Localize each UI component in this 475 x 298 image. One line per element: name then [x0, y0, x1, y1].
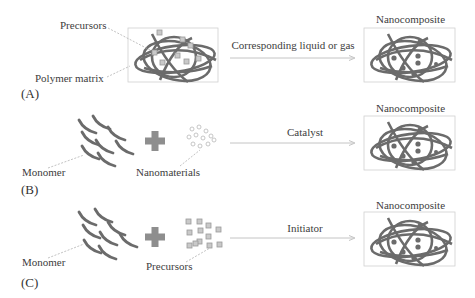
nanocomposite-label-a: Nanocomposite	[376, 14, 445, 25]
panel-a-input-box	[128, 28, 218, 87]
precursors-leader-line	[108, 28, 150, 50]
matrix-leader-line	[107, 66, 130, 77]
panel-b-output-box	[364, 116, 455, 175]
precursors-label-c: Precursors	[146, 261, 192, 272]
nanomaterial-circles	[187, 125, 216, 148]
panel-c-monomers	[79, 209, 137, 259]
panel-c-tag: (C)	[21, 276, 38, 289]
precursor-squares	[186, 219, 222, 248]
polymer-matrix-label: Polymer matrix	[35, 73, 104, 84]
nanomaterials-label: Nanomaterials	[136, 167, 200, 178]
panel-c-output-box	[364, 212, 455, 271]
monomer-label-b: Monomer	[22, 167, 65, 178]
nanocomposite-label-c: Nanocomposite	[376, 200, 445, 211]
panel-a-tag: (A)	[21, 87, 39, 100]
panel-b-tag: (B)	[21, 183, 38, 196]
panel-a-arrow	[230, 56, 355, 61]
plus-icon	[145, 131, 165, 151]
step-label-c: Initiator	[287, 223, 322, 234]
panel-b-monomers	[79, 116, 133, 166]
plus-icon	[145, 227, 165, 247]
step-label-a: Corresponding liquid or gas	[231, 40, 354, 51]
panel-b-arrow	[230, 141, 355, 146]
monomer-label-c: Monomer	[22, 257, 65, 268]
panel-a-output-box	[364, 28, 455, 87]
nanocomposite-label-b: Nanocomposite	[376, 103, 445, 114]
step-label-b: Catalyst	[287, 127, 323, 138]
precursors-label: Precursors	[60, 20, 106, 31]
panel-c-arrow	[230, 236, 355, 241]
nanomaterials-leader-line	[180, 150, 200, 166]
